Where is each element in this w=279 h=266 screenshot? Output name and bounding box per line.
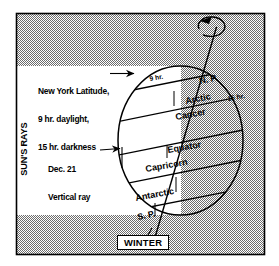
callout-dec21-line1: Dec. 21 xyxy=(48,165,90,174)
diagram-canvas: N. P. Arctic Cancer Equator Capricorn An… xyxy=(0,0,279,266)
label-suns-rays: SUN'S RAYS xyxy=(19,109,29,189)
label-winter: WINTER xyxy=(117,235,169,250)
callout-new-york-line1: New York Latitude, xyxy=(38,87,109,96)
callout-dec21-line2: Vertical ray xyxy=(48,193,90,202)
callout-dec21-vertical-ray: Dec. 21 Vertical ray xyxy=(48,146,90,221)
callout-new-york-line2: 9 hr. daylight, xyxy=(38,115,109,124)
